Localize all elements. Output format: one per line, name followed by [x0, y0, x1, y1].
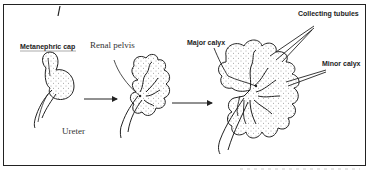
stage-2-kidney	[114, 54, 170, 138]
label-collecting-tubules: Collecting tubules	[298, 10, 359, 18]
label-renal-pelvis: Renal pelvis	[90, 40, 135, 50]
stray-mark	[58, 6, 60, 16]
label-ureter: Ureter	[62, 126, 85, 136]
stage-3-kidney	[214, 26, 326, 154]
label-major-calyx: Major calyx	[187, 39, 225, 47]
label-metanephric-cap: Metanephric cap	[20, 43, 75, 51]
kidney-development-diagram: Metanephric cap Ureter Renal pelvis	[0, 0, 371, 173]
label-minor-calyx: Minor calyx	[322, 60, 361, 68]
stage-1-bud	[34, 52, 74, 128]
